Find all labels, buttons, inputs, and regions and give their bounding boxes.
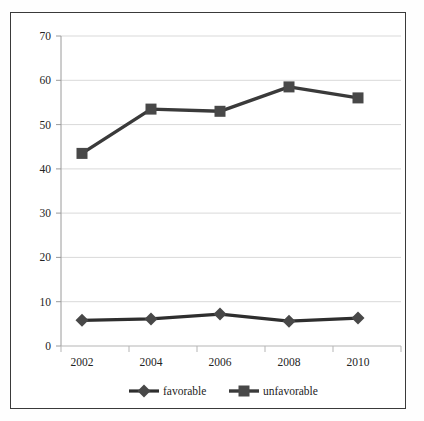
series-unfavorable-marker (146, 104, 157, 115)
series-favorable-marker (214, 308, 227, 321)
x-axis-ticks (61, 346, 401, 352)
chart-figure: 70 60 50 40 30 20 10 0 2002 2004 2006 20… (0, 0, 424, 421)
series-favorable (76, 308, 365, 328)
series-unfavorable-marker (284, 81, 295, 92)
series-favorable-marker (283, 315, 296, 328)
y-tick-label-50: 50 (40, 119, 52, 131)
gridlines-horizontal (61, 36, 401, 302)
legend-item-unfavorable[interactable]: unfavorable (229, 385, 318, 397)
legend-marker-diamond-icon (138, 385, 151, 398)
series-favorable-marker (352, 312, 365, 325)
x-tick-label-2004: 2004 (140, 356, 163, 368)
series-unfavorable-marker (353, 92, 364, 103)
y-tick-label-60: 60 (40, 74, 52, 86)
x-tick-label-2002: 2002 (71, 356, 94, 368)
legend-item-favorable[interactable]: favorable (129, 385, 206, 398)
y-axis-ticks (56, 36, 61, 346)
y-tick-label-20: 20 (40, 251, 52, 263)
x-tick-label-2008: 2008 (278, 356, 301, 368)
chart-legend: favorable unfavorable (129, 385, 318, 398)
legend-label-unfavorable: unfavorable (263, 385, 318, 397)
y-tick-label-0: 0 (45, 340, 51, 352)
series-unfavorable (77, 81, 364, 158)
y-tick-label-10: 10 (40, 296, 52, 308)
y-tick-label-30: 30 (40, 207, 52, 219)
series-unfavorable-line (82, 87, 358, 153)
legend-label-favorable: favorable (163, 385, 206, 397)
x-tick-label-2010: 2010 (347, 356, 370, 368)
y-tick-label-70: 70 (40, 30, 52, 42)
series-favorable-marker (76, 314, 89, 327)
series-favorable-marker (145, 312, 158, 325)
x-tick-label-2006: 2006 (209, 356, 232, 368)
chart-border-frame: 70 60 50 40 30 20 10 0 2002 2004 2006 20… (10, 12, 406, 409)
line-chart-plot: 70 60 50 40 30 20 10 0 2002 2004 2006 20… (11, 13, 405, 408)
legend-marker-square-icon (239, 386, 250, 397)
series-unfavorable-marker (215, 106, 226, 117)
series-unfavorable-marker (77, 148, 88, 159)
y-tick-label-40: 40 (40, 163, 52, 175)
